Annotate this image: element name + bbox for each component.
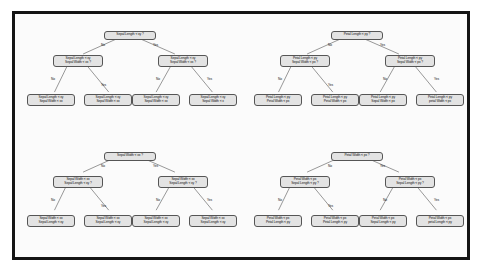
tree-bottom-right-edge-label-right-no: No <box>383 198 387 202</box>
tree-top-left-mid-0: Sepal Length < xySepal Width < xx ? <box>53 55 103 67</box>
tree-top-left-edge-label-right-no: No <box>156 77 160 81</box>
node-text-line: Petal Length < py <box>323 221 347 225</box>
tree-bottom-left-mid-1: Sepal Width < xxSepal Length < xy ? <box>158 176 208 188</box>
tree-bottom-left-edge-label-left-no: No <box>51 198 55 202</box>
node-text-line: Sepal Length < xy ? <box>64 182 91 186</box>
tree-top-right-edge-label-left-yes: Yes <box>328 83 333 87</box>
node-text-line: Sepal Width < xx <box>39 100 62 104</box>
tree-top-right-leaf-3: Petal Length < pypetal Width < px <box>416 94 464 106</box>
node-text-line: Sepal Width < xx ? <box>65 61 91 65</box>
node-text-line: Petal Width < px ? <box>344 154 369 158</box>
node-text-line: Sepal Length < py <box>371 221 396 225</box>
node-text-line: petal Width < px <box>429 100 451 104</box>
node-text-line: Sepal Width < px ? <box>397 61 423 65</box>
tree-bottom-right-leaf-2: Petal Width < pxSepal Length < py <box>359 215 407 227</box>
tree-top-right-mid-1: Petal Length < pySepal Width < px ? <box>385 55 435 67</box>
node-text-line: Petal Width < px <box>267 100 290 104</box>
tree-bottom-right-mid-1: Petal Width < pxSepal Length < py ? <box>385 176 435 188</box>
tree-bottom-right-leaf-1: Petal Width < pxPetal Length < py <box>311 215 359 227</box>
node-text-line: Petal Length < py ? <box>344 33 371 37</box>
node-text-line: Sepal Width < xx <box>96 100 119 104</box>
tree-bottom-right-edge-label-root-no: No <box>328 164 332 168</box>
tree-top-right-leaf-0: Petal Length < pyPetal Width < px <box>254 94 302 106</box>
tree-bottom-left-leaf-2: Sepal Width < xxSepal Length < xy <box>132 215 180 227</box>
tree-top-right-leaf-2: Petal Length < pySepal Width < px <box>359 94 407 106</box>
node-text-line: Sepal Length < xy <box>96 221 121 225</box>
node-text-line: Petal Width < px <box>324 100 347 104</box>
tree-bottom-right-edge-label-right-yes: Yes <box>434 198 439 202</box>
tree-bottom-left-root-0: Sepal Width < xx ? <box>104 152 156 161</box>
tree-bottom-left-edge-label-left-yes: Yes <box>101 204 106 208</box>
tree-top-left-leaf-1: Sepal Length < xySepal Width < xx <box>84 94 132 106</box>
node-text-line: Sepal Width < xx ? <box>117 154 143 158</box>
node-text-line: Sepal Length < xy ? <box>169 182 196 186</box>
tree-top-left-edge-label-right-yes: Yes <box>207 77 212 81</box>
tree-top-right-edge-label-right-yes: Yes <box>434 77 439 81</box>
tree-bottom-right-edge-label-left-no: No <box>278 198 282 202</box>
tree-top-left-root-0: Sepal Length < xy ? <box>104 31 156 40</box>
tree-bottom-right-edge-label-left-yes: Yes <box>328 204 333 208</box>
tree-top-right-edge-label-root-no: No <box>328 43 332 47</box>
node-text-line: Sepal Length < xy <box>144 221 169 225</box>
tree-top-left-leaf-2: Sepal Length < xySepal Width < xx <box>132 94 180 106</box>
tree-top-right-edge-label-left-no: No <box>278 77 282 81</box>
tree-bottom-left-mid-0: Sepal Width < xxSepal Length < xy ? <box>53 176 103 188</box>
tree-bottom-left-leaf-1: Sepal Width < xxSepal Length < xy <box>84 215 132 227</box>
node-text-line: Sepal Width < xx <box>144 100 167 104</box>
tree-bottom-left-edge-label-root-no: No <box>101 164 105 168</box>
tree-top-left-edge-label-left-no: No <box>51 77 55 81</box>
tree-bottom-left-edge-label-right-no: No <box>156 198 160 202</box>
tree-bottom-right-root-0: Petal Width < px ? <box>331 152 383 161</box>
node-text-line: Sepal Length < xy <box>201 221 226 225</box>
node-text-line: Sepal Length < py ? <box>291 182 319 186</box>
node-text-line: Sepal Width < px ? <box>292 61 318 65</box>
tree-top-right-mid-0: Petal Length < pySepal Width < px ? <box>280 55 330 67</box>
tree-top-left-mid-1: Sepal Length < xySepal Width < xx ? <box>158 55 208 67</box>
tree-bottom-right-leaf-3: Petal Width < pxpetal Length < py <box>416 215 464 227</box>
tree-bottom-left-leaf-0: Sepal Width < xxSepal Length < xy <box>27 215 75 227</box>
node-text-line: petal Length < py <box>428 221 452 225</box>
tree-bottom-left-edge-label-right-yes: Yes <box>207 198 212 202</box>
tree-bottom-right-edge-label-root-yes: Yes <box>380 164 385 168</box>
node-text-line: Sepal Length < py ? <box>396 182 424 186</box>
tree-top-left-leaf-3: Sepal Length < xySepal Width < x <box>189 94 237 106</box>
tree-top-right-edge-label-right-no: No <box>383 77 387 81</box>
tree-bottom-right-mid-0: Petal Width < pxSepal Length < py ? <box>280 176 330 188</box>
figure-frame: Sepal Length < xy ?Sepal Length < xySepa… <box>12 11 470 260</box>
tree-bottom-left-edge-label-root-yes: Yes <box>153 164 158 168</box>
node-text-line: Sepal Width < x <box>202 100 224 104</box>
tree-top-left-leaf-0: Sepal Length < xySepal Width < xx <box>27 94 75 106</box>
node-text-line: Sepal Length < xy <box>39 221 64 225</box>
node-text-line: Sepal Width < xx ? <box>170 61 196 65</box>
tree-top-right-leaf-1: Petal Length < pyPetal Width < px <box>311 94 359 106</box>
node-text-line: Sepal Length < xy ? <box>116 33 143 37</box>
tree-top-left-edge-label-root-no: No <box>101 43 105 47</box>
tree-top-right-root-0: Petal Length < py ? <box>331 31 383 40</box>
tree-bottom-left-leaf-3: Sepal Width < xxSepal Length < xy <box>189 215 237 227</box>
node-text-line: Sepal Width < px <box>371 100 394 104</box>
tree-top-left-edge-label-left-yes: Yes <box>101 83 106 87</box>
node-text-line: Petal Length < py <box>266 221 290 225</box>
tree-top-right-edge-label-root-yes: Yes <box>380 43 385 47</box>
tree-top-left-edge-label-root-yes: Yes <box>153 43 158 47</box>
tree-bottom-right-leaf-0: Petal Width < pxPetal Length < py <box>254 215 302 227</box>
